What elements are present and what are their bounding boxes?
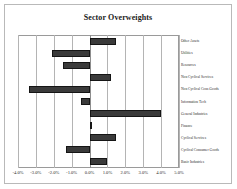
category-label-finance: Finance [181, 124, 237, 128]
bar-non-cyclical-cons-goods[interactable] [29, 86, 90, 93]
bar-row [18, 83, 179, 95]
chart-screenshot: Sector Overweights Other AssetsUtilities… [0, 0, 237, 189]
category-label-information-tech: Information Tech [181, 100, 237, 104]
category-label-cyclical-consumer-goods: Cyclical Consumer Goods [181, 148, 237, 152]
bar-non-cyclical-services[interactable] [90, 74, 111, 81]
category-label-other-assets: Other Assets [181, 39, 237, 43]
category-label-general-industries: General Industries [181, 112, 237, 116]
xtick-label: 2.0% [121, 170, 131, 176]
xtick-label: -3.0% [30, 170, 41, 176]
bar-cyclical-services[interactable] [90, 134, 117, 141]
category-label-resources: Resources [181, 63, 237, 67]
bar-row [18, 95, 179, 107]
bar-cyclical-consumer-goods[interactable] [66, 146, 89, 153]
bar-finance[interactable] [90, 122, 92, 129]
chart-frame: Sector Overweights Other AssetsUtilities… [4, 4, 232, 184]
bar-information-tech[interactable] [81, 98, 90, 105]
bar-row [18, 47, 179, 59]
bar-general-industries[interactable] [90, 110, 162, 117]
category-axis-labels: Other AssetsUtilitiesResourcesNon Cyclic… [181, 35, 237, 168]
bar-row [18, 120, 179, 132]
category-label-non-cyclical-cons-goods: Non Cyclical Cons Goods [181, 87, 237, 91]
bar-row [18, 108, 179, 120]
bar-row [18, 35, 179, 47]
xtick-label: 4.0% [156, 170, 166, 176]
bar-basic-industries[interactable] [90, 158, 108, 165]
gridline-50 [179, 35, 180, 168]
bars-layer [18, 35, 179, 168]
xtick-label: -4.0% [12, 170, 23, 176]
bar-resources[interactable] [63, 62, 90, 69]
xtick-label: 3.0% [138, 170, 148, 176]
xtick-label: 1.0% [103, 170, 113, 176]
bar-utilities[interactable] [52, 50, 90, 57]
category-label-utilities: Utilities [181, 51, 237, 55]
xtick-label: -1.0% [66, 170, 77, 176]
xtick-label: 0.0% [85, 170, 95, 176]
bar-row [18, 144, 179, 156]
bar-row [18, 156, 179, 168]
bar-row [18, 59, 179, 71]
bar-row [18, 71, 179, 83]
bar-other-assets[interactable] [90, 38, 117, 45]
bar-row [18, 132, 179, 144]
plot-wrapper [18, 35, 179, 168]
xtick-label: 5.0% [174, 170, 184, 176]
category-label-non-cyclical-services: Non Cyclical Services [181, 75, 237, 79]
chart-title: Sector Overweights [5, 13, 231, 22]
category-label-cyclical-services: Cyclical Services [181, 136, 237, 140]
category-label-basic-industries: Basic Industries [181, 160, 237, 164]
x-axis-tick-labels: -4.0%-3.0%-2.0%-1.0%0.0%1.0%2.0%3.0%4.0%… [18, 170, 179, 182]
xtick-label: -2.0% [48, 170, 59, 176]
